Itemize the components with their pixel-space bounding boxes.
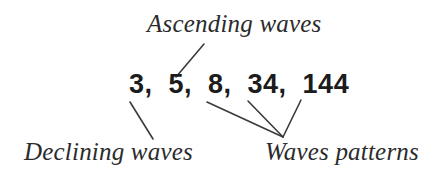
number-sequence: 3, 5, 8, 34, 144 bbox=[129, 71, 349, 98]
connector-eight-to-waves-patterns bbox=[207, 102, 283, 137]
connector-onefourfour-to-waves-patterns bbox=[283, 100, 301, 137]
label-waves-patterns: Waves patterns bbox=[265, 139, 419, 164]
connector-three-to-declining bbox=[130, 102, 153, 139]
connector-thirtyfour-to-waves-patterns bbox=[248, 101, 283, 137]
label-ascending-waves: Ascending waves bbox=[147, 11, 321, 36]
annotated-sequence-figure: Ascending waves 3, 5, 8, 34, 144 Declini… bbox=[0, 0, 429, 176]
label-declining-waves: Declining waves bbox=[24, 139, 193, 164]
